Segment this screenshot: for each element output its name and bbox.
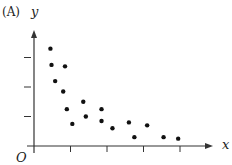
data-point <box>48 46 52 50</box>
data-point <box>84 114 88 118</box>
data-point <box>132 135 136 139</box>
data-point <box>81 100 85 104</box>
data-points <box>48 46 180 140</box>
y-axis-arrow-icon <box>31 30 37 38</box>
data-point <box>65 107 69 111</box>
data-point <box>63 64 67 68</box>
data-point <box>110 126 114 130</box>
data-point <box>127 120 131 124</box>
scatter-plot <box>0 0 232 165</box>
x-axis-arrow-icon <box>205 143 213 149</box>
data-point <box>61 89 65 93</box>
data-point <box>99 119 103 123</box>
data-point <box>99 107 103 111</box>
data-point <box>161 135 165 139</box>
data-point <box>145 123 149 127</box>
data-point <box>176 136 180 140</box>
data-point <box>53 79 57 83</box>
data-point <box>49 63 53 67</box>
data-point <box>70 122 74 126</box>
